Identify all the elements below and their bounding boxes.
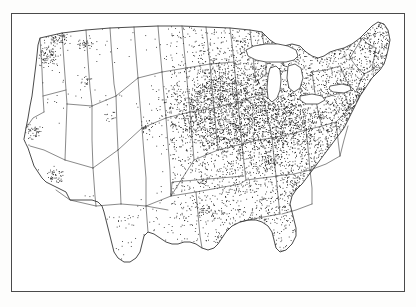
state-border-line	[310, 170, 312, 204]
state-border-line	[312, 66, 340, 72]
state-border-line	[162, 72, 166, 118]
state-border-line	[67, 104, 92, 106]
state-border-line	[142, 128, 146, 206]
state-border-line	[158, 26, 162, 72]
state-border-line	[116, 96, 118, 150]
state-border-line	[166, 118, 171, 196]
state-boundaries-layer	[26, 26, 378, 248]
state-border-line	[86, 30, 92, 106]
state-border-line	[256, 74, 266, 82]
state-border-line	[138, 78, 142, 128]
state-border-line	[206, 27, 210, 64]
state-border-line	[40, 38, 44, 112]
state-border-line	[276, 176, 280, 214]
state-border-line	[121, 204, 168, 210]
state-border-line	[282, 204, 312, 214]
state-border-line	[218, 144, 242, 150]
state-border-line	[56, 190, 96, 206]
us-dot-density-map	[0, 0, 416, 307]
state-border-line	[118, 150, 121, 204]
state-border-line	[246, 176, 278, 180]
state-border-line	[230, 28, 234, 62]
state-border-line	[30, 146, 65, 160]
state-border-line	[65, 104, 67, 160]
state-border-line	[182, 26, 186, 68]
great-lake-shape	[287, 64, 303, 92]
great-lake-shape	[329, 84, 351, 93]
state-border-line	[190, 112, 194, 160]
state-border-line	[364, 64, 378, 74]
state-border-line	[272, 130, 306, 138]
dot-layer	[25, 23, 390, 260]
state-border-line	[138, 72, 162, 78]
state-border-line	[336, 122, 340, 156]
state-border-line	[110, 28, 116, 96]
great-lake-shape	[300, 94, 325, 104]
state-border-line	[162, 68, 186, 72]
national-outline-layer	[24, 22, 390, 262]
state-border-line	[194, 150, 218, 160]
state-border-line	[116, 78, 138, 96]
state-border-line	[196, 192, 202, 248]
state-border-line	[65, 160, 93, 168]
state-border-line	[62, 33, 67, 104]
state-border-line	[142, 118, 166, 128]
dot-density-map-figure	[0, 0, 416, 307]
state-border-line	[242, 138, 272, 144]
state-border-line	[340, 126, 348, 156]
state-border-line	[171, 160, 194, 196]
great-lake-shape	[246, 44, 298, 62]
state-border-line	[93, 150, 118, 168]
state-border-line	[92, 106, 93, 168]
state-border-line	[196, 180, 246, 192]
state-border-line	[92, 96, 116, 106]
state-border-line	[134, 27, 138, 78]
state-border-line	[186, 64, 210, 68]
state-border-line	[146, 206, 148, 232]
state-border-line	[118, 128, 142, 150]
us-national-outline	[24, 22, 390, 262]
state-border-line	[43, 90, 66, 96]
